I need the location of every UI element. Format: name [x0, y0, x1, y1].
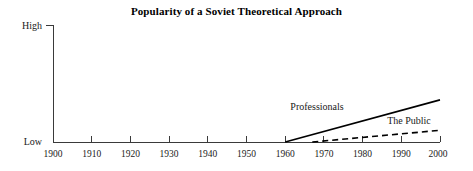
x-tick-label-1930: 1930	[160, 149, 179, 159]
x-tick-label-1960: 1960	[276, 149, 295, 159]
chart-plot-area: High Low 1900 1910 1920 1930 1940 1950 1…	[0, 0, 473, 171]
x-tick-label-1940: 1940	[198, 149, 217, 159]
x-axis-ticks	[53, 136, 440, 142]
y-axis-high-label: High	[22, 20, 42, 31]
x-tick-label-1900: 1900	[44, 149, 63, 159]
x-tick-label-1970: 1970	[314, 149, 333, 159]
x-tick-label-1920: 1920	[121, 149, 140, 159]
y-axis-low-label: Low	[24, 136, 43, 147]
x-tick-label-1910: 1910	[82, 149, 101, 159]
series-line-the-public	[312, 130, 440, 142]
x-tick-label-1980: 1980	[353, 149, 372, 159]
series-annotation-professionals: Professionals	[290, 101, 343, 112]
x-tick-label-1950: 1950	[237, 149, 256, 159]
x-axis-tick-labels: 1900 1910 1920 1930 1940 1950 1960 1970 …	[44, 149, 448, 159]
y-axis-line	[46, 25, 53, 142]
series-annotation-the-public: The Public	[387, 115, 431, 126]
chart-figure: Popularity of a Soviet Theoretical Appro…	[0, 0, 473, 171]
x-tick-label-2000: 2000	[429, 149, 448, 159]
x-tick-label-1990: 1990	[392, 149, 411, 159]
